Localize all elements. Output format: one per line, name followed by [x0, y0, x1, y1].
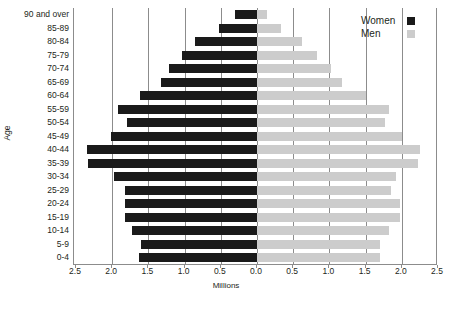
legend-label: Men: [361, 28, 407, 39]
pyramid-row: [74, 49, 436, 63]
bar-women: [169, 64, 257, 73]
x-axis-tick: [437, 265, 438, 268]
bar-men: [257, 159, 418, 168]
bar-men: [257, 240, 380, 249]
y-axis-tick-label: 65-69: [47, 76, 69, 90]
pyramid-row: [74, 130, 436, 144]
bar-women: [132, 226, 257, 235]
bar-women: [118, 105, 257, 114]
bar-men: [257, 145, 420, 154]
x-axis-labels: 2.52.01.51.00.50.00.51.01.52.02.5: [0, 266, 452, 280]
bar-men: [257, 118, 385, 127]
y-axis-labels: 90 and over85-8980-8475-7970-7465-6960-6…: [0, 8, 71, 265]
bar-men: [257, 91, 366, 100]
bar-women: [127, 118, 257, 127]
x-axis-tick: [75, 265, 76, 268]
bar-women: [87, 145, 257, 154]
pyramid-row: [74, 251, 436, 265]
bar-women: [182, 51, 257, 60]
bar-women: [195, 37, 257, 46]
pyramid-row: [74, 103, 436, 117]
x-axis-tick: [147, 265, 148, 268]
bar-men: [257, 132, 402, 141]
x-axis-tick: [292, 265, 293, 268]
bar-women: [125, 213, 257, 222]
population-pyramid-chart: Age 90 and over85-8980-8475-7970-7465-69…: [0, 0, 452, 309]
bar-women: [139, 253, 257, 262]
pyramid-row: [74, 211, 436, 225]
x-axis-tick: [256, 265, 257, 268]
bar-men: [257, 51, 317, 60]
pyramid-row: [74, 197, 436, 211]
y-axis-tick-label: 70-74: [47, 62, 69, 76]
legend-item: Women: [361, 14, 415, 27]
y-axis-tick-label: 85-89: [47, 22, 69, 36]
legend-swatch-women: [407, 17, 415, 25]
bar-men: [257, 172, 396, 181]
pyramid-row: [74, 62, 436, 76]
bar-women: [111, 132, 257, 141]
bar-men: [257, 24, 281, 33]
pyramid-row: [74, 76, 436, 90]
y-axis-tick-label: 60-64: [47, 89, 69, 103]
bar-men: [257, 213, 400, 222]
y-axis-tick-label: 40-44: [47, 143, 69, 157]
plot-area: [73, 8, 437, 265]
bar-women: [88, 159, 257, 168]
bar-men: [257, 199, 400, 208]
y-axis-tick-label: 0-4: [57, 251, 69, 265]
x-axis-tick: [220, 265, 221, 268]
pyramid-row: [74, 89, 436, 103]
bar-women: [235, 10, 257, 19]
pyramid-row: [74, 116, 436, 130]
bar-women: [219, 24, 257, 33]
pyramid-row: [74, 170, 436, 184]
y-axis-tick-label: 50-54: [47, 116, 69, 130]
bar-men: [257, 226, 389, 235]
y-axis-tick-label: 20-24: [47, 197, 69, 211]
pyramid-row: [74, 184, 436, 198]
y-axis-tick-label: 35-39: [47, 157, 69, 171]
y-axis-tick-label: 75-79: [47, 49, 69, 63]
chart-legend: WomenMen: [361, 14, 415, 40]
bar-men: [257, 78, 342, 87]
pyramid-row: [74, 224, 436, 238]
pyramid-row: [74, 157, 436, 171]
bar-women: [140, 91, 257, 100]
bar-women: [161, 78, 257, 87]
x-axis-tick: [401, 265, 402, 268]
bar-men: [257, 105, 389, 114]
x-axis-tick: [111, 265, 112, 268]
x-axis-tick: [328, 265, 329, 268]
legend-item: Men: [361, 27, 415, 40]
bar-men: [257, 64, 331, 73]
x-axis-title: Millions: [0, 281, 452, 290]
pyramid-row: [74, 238, 436, 252]
x-axis-tick: [184, 265, 185, 268]
bar-women: [141, 240, 257, 249]
pyramid-row: [74, 143, 436, 157]
y-axis-tick-label: 55-59: [47, 103, 69, 117]
bar-women: [114, 172, 257, 181]
bar-men: [257, 37, 302, 46]
y-axis-tick-label: 25-29: [47, 184, 69, 198]
x-axis-tick: [365, 265, 366, 268]
y-axis-tick-label: 10-14: [47, 224, 69, 238]
y-axis-tick-label: 90 and over: [24, 8, 69, 22]
bar-women: [125, 199, 257, 208]
y-axis-tick-label: 45-49: [47, 130, 69, 144]
bar-women: [125, 186, 257, 195]
bar-men: [257, 186, 391, 195]
y-axis-tick-label: 30-34: [47, 170, 69, 184]
legend-swatch-men: [407, 30, 415, 38]
bar-men: [257, 10, 267, 19]
y-axis-tick-label: 15-19: [47, 211, 69, 225]
legend-label: Women: [361, 15, 407, 26]
y-axis-tick-label: 80-84: [47, 35, 69, 49]
bar-men: [257, 253, 380, 262]
y-axis-tick-label: 5-9: [57, 238, 69, 252]
